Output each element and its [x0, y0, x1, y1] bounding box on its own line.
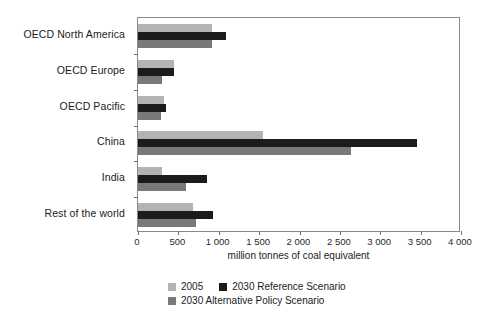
y-axis-tick [134, 126, 138, 127]
x-axis-tick [300, 231, 301, 235]
category-label: China [97, 135, 125, 147]
bar [138, 32, 226, 40]
x-axis-tick [138, 231, 139, 235]
x-axis-title: million tonnes of coal equivalent [137, 250, 460, 261]
x-axis-tick [340, 231, 341, 235]
bar-group [138, 96, 459, 120]
legend-swatch-icon-alternative [168, 297, 176, 305]
y-axis-tick [134, 161, 138, 162]
bar [138, 112, 161, 120]
x-axis-tick-label: 1 000 [206, 236, 230, 247]
legend-row-top: 2005 2030 Reference Scenario [168, 281, 468, 292]
x-axis-tick [259, 231, 260, 235]
bar [138, 167, 162, 175]
category-label: OECD Pacific [60, 100, 125, 112]
category-label: India [102, 171, 125, 183]
bar [138, 147, 351, 155]
bar [138, 40, 212, 48]
bar [138, 76, 162, 84]
category-label: OECD North America [23, 28, 125, 40]
bar [138, 183, 186, 191]
bar-chart: OECD North AmericaOECD EuropeOECD Pacifi… [0, 0, 493, 328]
x-axis-tick-label: 3 500 [408, 236, 432, 247]
bar-group [138, 203, 459, 227]
legend-row-bottom: 2030 Alternative Policy Scenario [168, 295, 468, 306]
bars-container [138, 18, 459, 231]
category-label: Rest of the world [45, 207, 126, 219]
x-axis-tick [380, 231, 381, 235]
legend-label-reference: 2030 Reference Scenario [232, 281, 345, 292]
x-axis-tick-labels: 05001 0001 5002 0002 5003 0003 5004 000 [137, 236, 460, 250]
x-axis-tick [178, 231, 179, 235]
x-axis-tick-label: 500 [169, 236, 185, 247]
legend-item-alternative: 2030 Alternative Policy Scenario [168, 295, 324, 306]
y-axis-tick [134, 197, 138, 198]
x-axis-tick [219, 231, 220, 235]
bar-group [138, 167, 459, 191]
x-axis-tick-label: 1 500 [246, 236, 270, 247]
chart-legend: 2005 2030 Reference Scenario 2030 Altern… [168, 281, 468, 309]
bar [138, 68, 174, 76]
legend-label-2005: 2005 [181, 281, 203, 292]
y-axis-tick [134, 54, 138, 55]
x-axis-tick [461, 231, 462, 235]
bar [138, 211, 213, 219]
y-axis-tick [134, 90, 138, 91]
x-axis-tick-label: 4 000 [448, 236, 472, 247]
bar [138, 203, 193, 211]
bar-group [138, 131, 459, 155]
bar [138, 175, 207, 183]
legend-swatch-icon-2005 [168, 283, 176, 291]
legend-swatch-icon-reference [219, 283, 227, 291]
x-axis-tick-label: 0 [134, 236, 139, 247]
x-axis-tick-label: 3 000 [367, 236, 391, 247]
category-label: OECD Europe [57, 64, 125, 76]
legend-label-alternative: 2030 Alternative Policy Scenario [181, 295, 324, 306]
bar-group [138, 60, 459, 84]
bar [138, 139, 417, 147]
bar [138, 131, 263, 139]
bar [138, 104, 166, 112]
category-axis-labels: OECD North AmericaOECD EuropeOECD Pacifi… [0, 17, 131, 232]
bar [138, 96, 164, 104]
legend-item-reference: 2030 Reference Scenario [219, 281, 345, 292]
x-axis-tick-label: 2 500 [327, 236, 351, 247]
bar-group [138, 24, 459, 48]
bar [138, 24, 212, 32]
plot-area [137, 17, 460, 232]
x-axis-tick-label: 2 000 [287, 236, 311, 247]
bar [138, 60, 174, 68]
x-axis-tick [421, 231, 422, 235]
bar [138, 219, 196, 227]
legend-item-2005: 2005 [168, 281, 203, 292]
